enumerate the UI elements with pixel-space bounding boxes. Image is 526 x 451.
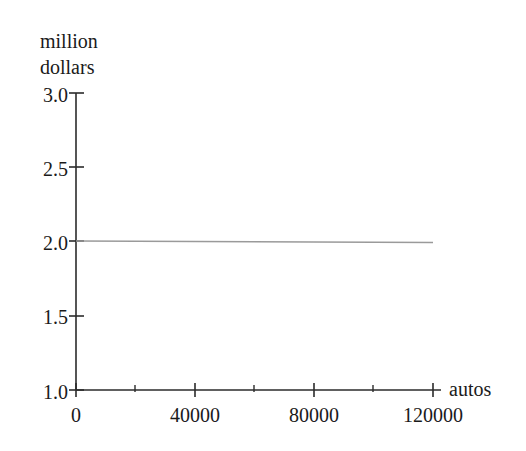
plot-area bbox=[0, 0, 526, 451]
chart-container: million dollars 3.0 2.5 2.0 1.5 1.0 0 40… bbox=[0, 0, 526, 451]
series-line-cost bbox=[76, 241, 433, 243]
x-axis-minor-ticks bbox=[135, 385, 373, 392]
